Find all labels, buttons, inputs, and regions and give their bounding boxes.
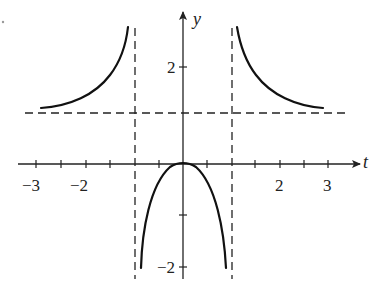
function-graph: −3 −2 2 3 2 −2 y t bbox=[0, 0, 375, 285]
x-tick-label-neg2: −2 bbox=[70, 176, 88, 195]
curves bbox=[41, 27, 323, 268]
y-axis-label: y bbox=[191, 9, 201, 29]
x-tick-label-3: 3 bbox=[323, 176, 332, 195]
x-axis-label: t bbox=[363, 152, 369, 172]
scan-dot bbox=[2, 21, 4, 23]
y-tick-label-neg2: −2 bbox=[157, 258, 175, 277]
asymptotes bbox=[25, 28, 346, 279]
right-branch-curve bbox=[237, 27, 323, 108]
left-branch-curve bbox=[41, 27, 128, 108]
y-tick-label-2: 2 bbox=[167, 58, 176, 77]
x-tick-label-neg3: −3 bbox=[22, 176, 40, 195]
x-tick-label-2: 2 bbox=[275, 176, 284, 195]
